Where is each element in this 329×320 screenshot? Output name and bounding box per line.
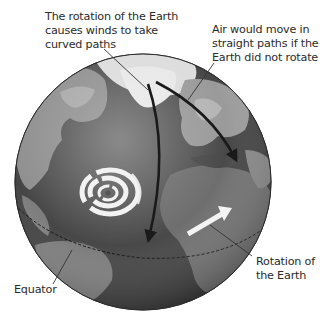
label-line: causes winds to take <box>45 24 178 38</box>
label-line: Equator <box>14 283 57 297</box>
label-curved-paths: The rotation of the Earth causes winds t… <box>45 10 178 52</box>
globe <box>15 53 275 310</box>
label-line: The rotation of the Earth <box>45 10 178 24</box>
label-line: Earth did not rotate <box>212 51 319 65</box>
label-line: Air would move in <box>212 23 319 37</box>
label-straight-paths: Air would move in straight paths if the … <box>212 23 319 65</box>
label-line: the Earth <box>256 269 315 283</box>
label-line: straight paths if the <box>212 37 319 51</box>
label-rotation: Rotation of the Earth <box>256 255 315 283</box>
label-equator: Equator <box>14 283 57 297</box>
label-line: curved paths <box>45 38 178 52</box>
label-line: Rotation of <box>256 255 315 269</box>
